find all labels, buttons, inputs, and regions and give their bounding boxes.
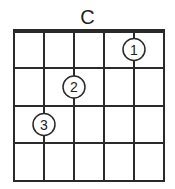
finger-marker-3: 3 — [33, 114, 55, 136]
chord-diagram: 123 — [0, 0, 175, 189]
finger-markers: 123 — [33, 39, 145, 136]
finger-marker-2: 2 — [63, 76, 85, 98]
finger-marker-1: 1 — [123, 39, 145, 61]
finger-number: 1 — [130, 42, 138, 58]
finger-number: 3 — [40, 117, 48, 133]
finger-number: 2 — [70, 79, 78, 95]
